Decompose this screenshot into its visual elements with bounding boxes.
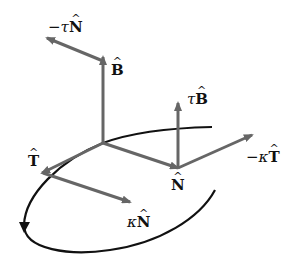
space-curve xyxy=(24,127,215,252)
minus-tau-normal-arrow xyxy=(47,38,103,61)
vector-symbol: ^T xyxy=(28,154,39,169)
tangent-arrow xyxy=(42,143,103,173)
coefficient: −τ xyxy=(48,18,69,36)
vector-symbol: ^T xyxy=(268,150,279,165)
vector-symbol: ^N xyxy=(137,215,151,230)
vector-symbol: ^N xyxy=(171,178,185,193)
normal-arrow xyxy=(103,143,178,168)
hat: ^ xyxy=(139,208,148,219)
label-b: ^B xyxy=(111,63,124,78)
coefficient: −κ xyxy=(246,148,268,166)
label-minus-kappa-t: −κ^T xyxy=(246,150,280,165)
curve-direction-arrowhead xyxy=(19,222,30,233)
hat: ^ xyxy=(113,56,122,67)
coefficient: κ xyxy=(127,213,137,231)
label-kappa-n: κ^N xyxy=(127,215,151,230)
coefficient: τ xyxy=(187,90,195,108)
minus-kappa-tangent-arrow xyxy=(178,135,252,168)
hat: ^ xyxy=(269,143,278,154)
label-n: ^N xyxy=(171,178,185,193)
diagram-graphics xyxy=(0,0,303,272)
hat: ^ xyxy=(197,85,206,96)
hat: ^ xyxy=(71,13,80,24)
label-t: ^T xyxy=(28,154,39,169)
frenet-frame-diagram: −τ^N ^B τ^B −κ^T ^N ^T κ^N xyxy=(0,0,303,272)
hat: ^ xyxy=(173,171,182,182)
label-minus-tau-n: −τ^N xyxy=(48,20,83,35)
vector-symbol: ^N xyxy=(69,20,83,35)
hat: ^ xyxy=(29,147,38,158)
vector-symbol: ^B xyxy=(111,63,124,78)
vector-symbol: ^B xyxy=(195,92,208,107)
kappa-normal-arrow xyxy=(43,173,130,202)
label-tau-b: τ^B xyxy=(187,92,208,107)
